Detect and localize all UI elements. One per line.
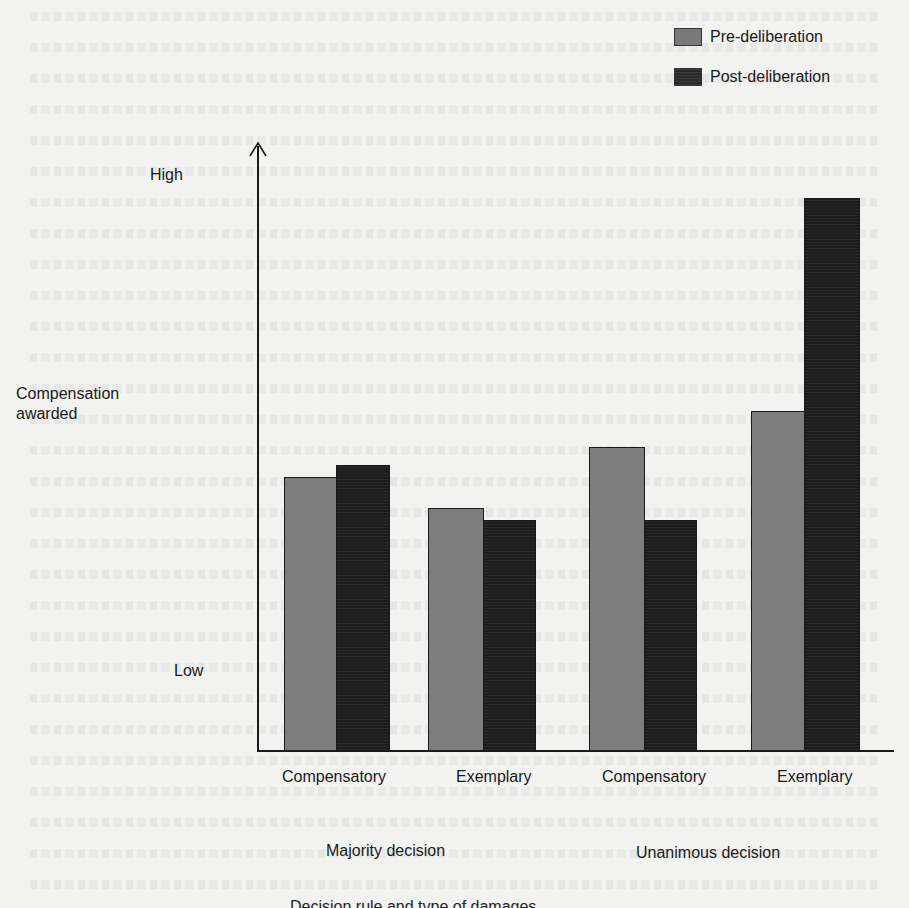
bleed-line	[30, 353, 879, 362]
bar-post-deliberation-exemplary	[804, 198, 860, 751]
y-tick-low: Low	[174, 662, 203, 680]
bar-pre-deliberation-compensatory	[284, 477, 337, 751]
bar-post-deliberation-compensatory	[336, 465, 390, 751]
pre-deliberation-swatch-icon	[674, 28, 702, 46]
bar-pre-deliberation-compensatory	[589, 447, 645, 751]
x-axis-title-cutoff: Decision rule and type of damages	[290, 898, 536, 908]
y-tick-high: High	[150, 166, 183, 184]
group-label-unanimous: Unanimous decision	[636, 844, 780, 862]
bleed-line	[30, 198, 879, 207]
bleed-line	[30, 229, 879, 238]
x-label-unanimous-compensatory: Compensatory	[602, 768, 706, 786]
legend-label: Post-deliberation	[710, 68, 830, 86]
y-axis-title-line-1: Compensation	[16, 384, 156, 404]
bleed-line	[30, 756, 879, 765]
bleed-line	[30, 818, 879, 827]
y-axis-title: Compensation awarded	[16, 384, 156, 424]
bleed-line	[30, 880, 879, 889]
y-axis-title-line-2: awarded	[16, 404, 156, 424]
bleed-line	[30, 105, 879, 114]
bleed-line	[30, 260, 879, 269]
legend-item-pre-deliberation: Pre-deliberation	[674, 28, 823, 46]
post-deliberation-swatch-icon	[674, 68, 702, 86]
bleed-line	[30, 787, 879, 796]
bleed-line	[30, 322, 879, 331]
group-label-majority: Majority decision	[326, 842, 445, 860]
legend-item-post-deliberation: Post-deliberation	[674, 68, 830, 86]
bar-post-deliberation-exemplary	[483, 520, 536, 751]
y-axis-line	[257, 146, 259, 752]
bar-pre-deliberation-exemplary	[751, 411, 805, 751]
x-label-majority-exemplary: Exemplary	[456, 768, 532, 786]
x-label-majority-compensatory: Compensatory	[282, 768, 386, 786]
bar-post-deliberation-compensatory	[644, 520, 697, 751]
bleed-line	[30, 384, 879, 393]
legend-label: Pre-deliberation	[710, 28, 823, 46]
x-label-unanimous-exemplary: Exemplary	[777, 768, 853, 786]
bleed-line	[30, 12, 879, 21]
bleed-line	[30, 291, 879, 300]
bar-pre-deliberation-exemplary	[428, 508, 484, 751]
bleed-line	[30, 136, 879, 145]
